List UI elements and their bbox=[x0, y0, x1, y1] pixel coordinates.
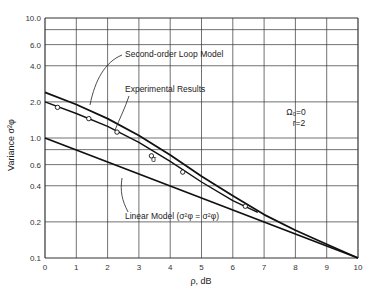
x-tick-label: 5 bbox=[199, 263, 204, 272]
x-tick-label: 6 bbox=[231, 263, 236, 272]
data-point-marker bbox=[181, 170, 185, 174]
r-annotation: r=2 bbox=[293, 118, 306, 128]
x-tick-label: 3 bbox=[137, 263, 142, 272]
x-axis-label: ρ, dB bbox=[190, 276, 211, 286]
y-tick-label: 0.2 bbox=[30, 218, 42, 227]
x-tick-label: 9 bbox=[324, 263, 329, 272]
y-tick-label: 10.0 bbox=[25, 14, 41, 23]
x-tick-label: 8 bbox=[293, 263, 298, 272]
data-point-marker bbox=[87, 116, 91, 120]
x-tick-label: 0 bbox=[43, 263, 48, 272]
y-tick-label: 2.0 bbox=[30, 98, 42, 107]
data-point-marker bbox=[55, 105, 59, 109]
data-point-marker bbox=[115, 130, 119, 134]
y-tick-label: 1.0 bbox=[30, 134, 42, 143]
second-order-label: Second-order Loop Model bbox=[125, 49, 223, 59]
y-tick-label: 0.1 bbox=[30, 254, 42, 263]
sigma-mark: σ bbox=[151, 154, 157, 164]
second-order-arrow bbox=[90, 55, 122, 105]
linear-arrow bbox=[121, 178, 128, 212]
linear-label: Linear Model (σ²φ = σ²φ) bbox=[125, 211, 219, 221]
y-tick-label: 0.4 bbox=[30, 182, 42, 191]
data-point-marker bbox=[243, 204, 247, 208]
x-tick-label: 1 bbox=[74, 263, 79, 272]
x-tick-label: 4 bbox=[168, 263, 173, 272]
variance-chart: 01234567891010.06.04.02.01.00.60.40.20.1… bbox=[0, 0, 371, 294]
x-tick-label: 7 bbox=[262, 263, 267, 272]
experimental-arrow bbox=[115, 96, 129, 130]
x-tick-label: 10 bbox=[354, 263, 363, 272]
y-tick-label: 6.0 bbox=[30, 41, 42, 50]
y-tick-label: 0.6 bbox=[30, 161, 42, 170]
y-axis-label: Variance σ²φ bbox=[6, 119, 16, 171]
experimental-label: Experimental Results bbox=[125, 84, 205, 94]
x-tick-label: 2 bbox=[105, 263, 110, 272]
omega-annotation: Ω₀=0 bbox=[286, 107, 306, 117]
y-tick-label: 4.0 bbox=[30, 62, 42, 71]
